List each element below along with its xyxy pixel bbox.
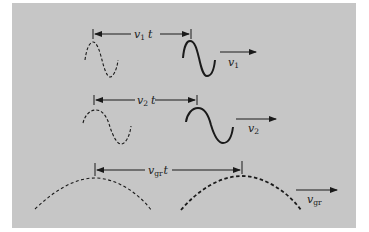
initial-envelope (35, 178, 152, 211)
distance-label-group: vgrt (148, 164, 169, 178)
wave-group-velocity-diagram: v1t v1 v2t v2 vgrt vgr (0, 0, 369, 232)
final-wave-2 (186, 108, 233, 143)
distance-bracket-group (95, 161, 242, 176)
velocity-label-1: v1 (228, 56, 239, 70)
initial-wave-2 (83, 110, 131, 144)
velocity-label-group: vgr (307, 193, 322, 207)
final-envelope (181, 176, 301, 210)
row-wave-2: v2t v2 (83, 94, 276, 144)
velocity-label-2: v2 (248, 122, 259, 136)
initial-wave-1 (85, 42, 118, 77)
row-group: vgrt vgr (35, 161, 337, 211)
final-wave-1 (183, 41, 215, 76)
distance-label-2: v2t (137, 94, 156, 108)
row-wave-1: v1t v1 (85, 28, 256, 77)
distance-label-1: v1t (134, 28, 153, 42)
